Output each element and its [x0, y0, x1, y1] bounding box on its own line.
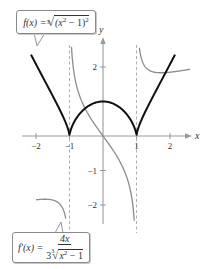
y-tick-label: −2: [87, 200, 97, 210]
fp-left-branch: [36, 199, 66, 218]
x-tick-label: −1: [65, 141, 75, 151]
y-axis-label: y: [98, 24, 104, 35]
y-tick-label: 2: [93, 62, 98, 72]
fp-denominator: 33√x2 − 1: [45, 245, 84, 262]
x-tick-label: −2: [31, 141, 41, 151]
fp-formula-label: f′(x) = 4x 33√x2 − 1: [12, 232, 90, 263]
x-axis-arrow-icon: [185, 133, 192, 138]
y-axis-arrow-icon: [100, 37, 105, 44]
fp-lhs: f′(x) =: [18, 242, 43, 253]
f-radicand-base: (x: [55, 18, 63, 29]
f-exp2: 2: [85, 16, 89, 24]
graph-canvas: −2−1122−1−2 x y: [0, 0, 205, 269]
f-lhs: f(x) =: [23, 17, 46, 28]
x-tick-label: 1: [134, 141, 139, 151]
x-axis-label: x: [194, 130, 200, 141]
f-callout-tail: [34, 33, 45, 46]
f-radicand: (x2 − 1)2: [54, 15, 89, 28]
fp-rad-tail: − 1: [67, 250, 83, 261]
fp-numerator: 4x: [58, 233, 71, 245]
fp-fraction: 4x 33√x2 − 1: [45, 233, 84, 262]
f-formula-label: f(x) = 3 √ (x2 − 1)2: [16, 10, 96, 34]
fp-right-branch: [139, 48, 190, 73]
derivative-curve: [36, 47, 190, 221]
f-radicand-mid: − 1): [66, 18, 85, 29]
x-tick-label: 2: [168, 141, 173, 151]
y-tick-label: −1: [87, 166, 97, 176]
radical-icon: √: [47, 15, 54, 30]
